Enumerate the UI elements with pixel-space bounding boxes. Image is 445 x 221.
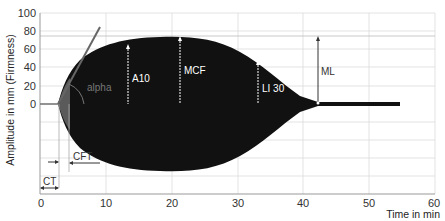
mcf-label: MCF — [184, 65, 206, 76]
svg-text:20: 20 — [166, 197, 178, 209]
svg-text:40: 40 — [24, 61, 36, 73]
ml-label: ML — [321, 66, 335, 77]
svg-text:40: 40 — [297, 197, 309, 209]
y-axis-label: Amplitude in mm (Firmness) — [4, 34, 16, 165]
svg-text:0: 0 — [30, 98, 36, 110]
svg-text:100: 100 — [18, 7, 36, 19]
svg-text:80: 80 — [24, 25, 36, 37]
svg-text:20: 20 — [24, 80, 36, 92]
svg-text:50: 50 — [363, 197, 375, 209]
clot-trace — [58, 37, 400, 171]
x-axis-label: Time in min — [386, 208, 440, 220]
svg-text:30: 30 — [232, 197, 244, 209]
a10-label: A10 — [132, 73, 150, 84]
y-tick-labels: 0 20 40 60 80 100 — [18, 7, 36, 110]
alpha-label: alpha — [87, 82, 112, 93]
li30-label: LI 30 — [262, 83, 285, 94]
svg-text:0: 0 — [38, 197, 44, 209]
ct-label: CT — [43, 176, 56, 187]
svg-text:60: 60 — [24, 43, 36, 55]
cft-label: CFT — [73, 151, 92, 162]
chart: alpha A10 MCF LI 30 ML CFT CT 0 20 40 60… — [0, 0, 445, 221]
x-tick-labels: 0 10 20 30 40 50 60 — [38, 197, 440, 209]
svg-text:10: 10 — [100, 197, 112, 209]
